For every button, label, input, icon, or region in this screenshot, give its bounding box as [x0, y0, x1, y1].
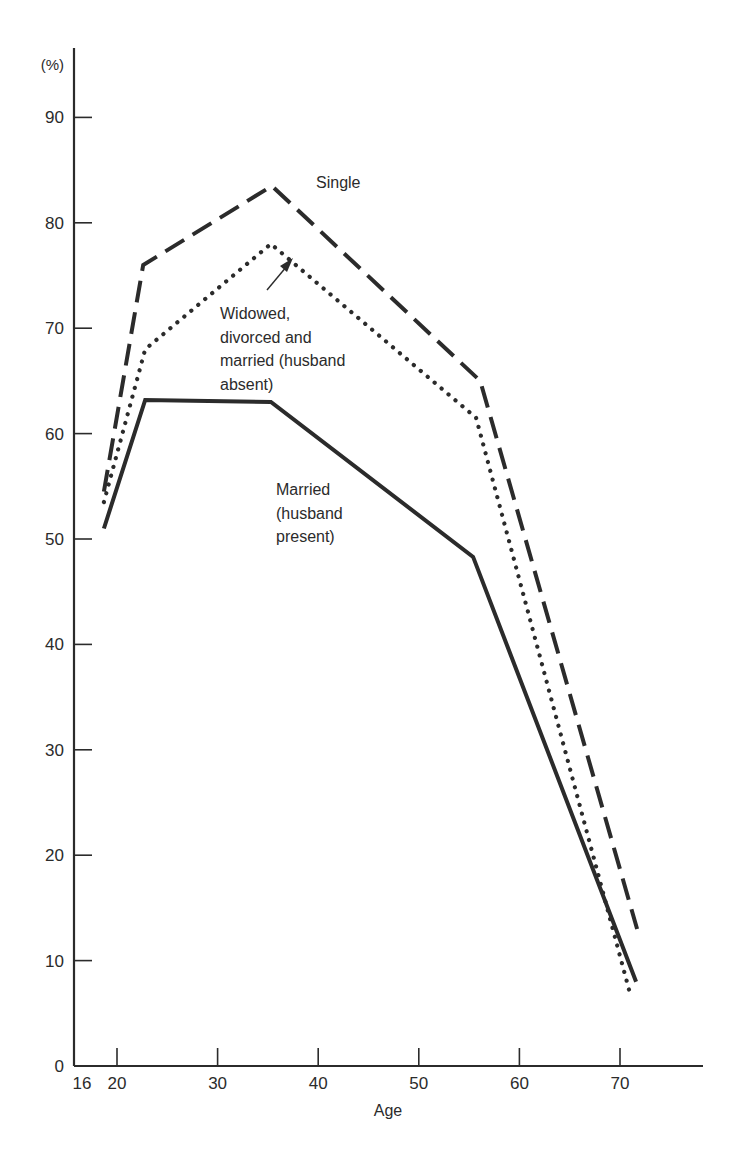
- annotation-widowed-divorced-absent: Widowed,divorced andmarried (husbandabse…: [220, 305, 345, 393]
- arrowhead-icon: [280, 258, 293, 272]
- x-tick-label: 50: [409, 1074, 428, 1093]
- series-line-married-present: [104, 400, 636, 982]
- y-tick-label: 20: [45, 846, 64, 865]
- y-tick-label: 90: [45, 108, 64, 127]
- x-axis-title: Age: [374, 1102, 403, 1119]
- y-tick-label: 0: [55, 1057, 64, 1076]
- y-tick-label: 10: [45, 952, 64, 971]
- line-chart: 0102030405060708090(%)16203040506070Age …: [0, 0, 738, 1170]
- y-tick-label: 70: [45, 319, 64, 338]
- annotations: SingleWidowed,divorced andmarried (husba…: [220, 174, 361, 545]
- annotation-single: Single: [316, 174, 361, 191]
- x-tick-label: 16: [73, 1074, 92, 1093]
- y-tick-label: 80: [45, 214, 64, 233]
- y-tick-label: 40: [45, 635, 64, 654]
- y-axis-unit-label: (%): [41, 56, 64, 73]
- y-tick-label: 60: [45, 425, 64, 444]
- series-line-single: [104, 186, 637, 929]
- y-tick-label: 50: [45, 530, 64, 549]
- x-tick-label: 20: [108, 1074, 127, 1093]
- x-tick-label: 60: [510, 1074, 529, 1093]
- x-tick-label: 70: [611, 1074, 630, 1093]
- annotation-married-present: Married(husbandpresent): [276, 481, 343, 545]
- series-line-widowed-divorced-absent: [104, 244, 631, 998]
- series-lines: [104, 186, 637, 998]
- x-tick-label: 40: [309, 1074, 328, 1093]
- axes: 0102030405060708090(%)16203040506070Age: [41, 48, 703, 1119]
- y-tick-label: 30: [45, 741, 64, 760]
- annotation-arrow-icon: [267, 266, 287, 290]
- x-tick-label: 30: [208, 1074, 227, 1093]
